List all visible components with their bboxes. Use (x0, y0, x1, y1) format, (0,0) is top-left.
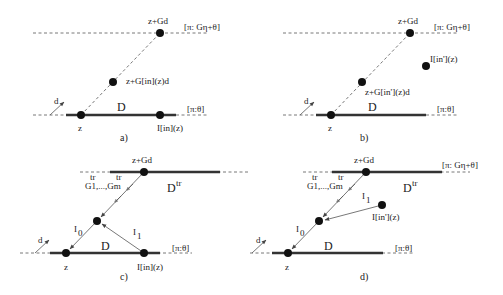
transpose-arrow-tick (338, 196, 343, 201)
panel-d: z+Gd [π: Gη+θ] tr tr G1,...,Gm D tr I 0 … (250, 155, 478, 283)
z-point (62, 249, 70, 257)
top-point (156, 29, 164, 37)
bottom-line-label: [π:θ] (395, 243, 412, 253)
panel-c: z+Gd tr tr G1,...,Gm D tr I 0 I 1 D [π:θ… (20, 155, 250, 283)
image-label: I[in](z) (137, 262, 163, 272)
top-domain-superscript: tr (176, 178, 182, 188)
transpose-arrow-tick (350, 184, 355, 189)
mid-point-label: z+G[in](z)d (126, 76, 170, 86)
top-point-label: z+Gd (148, 16, 169, 26)
I0-label: I (74, 224, 77, 234)
I0-subscript: 0 (300, 228, 305, 238)
z-point (284, 249, 292, 257)
transpose-arrow-tick (128, 184, 133, 189)
z-point (327, 111, 335, 119)
image-point (156, 111, 164, 119)
mid-point (93, 217, 101, 225)
I0-subscript: 0 (78, 228, 83, 238)
direction-label: d (54, 96, 59, 106)
direction-label: d (38, 235, 43, 245)
top-domain-label: D (403, 181, 412, 195)
z-label: z (285, 262, 289, 272)
z-label: z (78, 123, 82, 133)
transpose-arrow (323, 172, 366, 217)
I1-label: I (133, 227, 136, 237)
domain-label: D (368, 100, 377, 114)
panel-caption: c) (120, 271, 128, 283)
mid-point (109, 78, 117, 86)
panel-caption: b) (360, 132, 368, 144)
image-point (140, 249, 148, 257)
domain-label: D (324, 239, 333, 253)
top-point-label: z+Gd (398, 16, 419, 26)
top-point-label: z+Gd (132, 155, 153, 165)
domain-label: D (117, 100, 126, 114)
panel-caption: a) (120, 132, 128, 144)
mid-point-label: z+G[in'](z)d (365, 87, 410, 97)
panel-b: z+Gd [π: Gη+θ] I[in'](z) z+G[in'](z)d D … (283, 16, 470, 144)
I1-label: I (362, 191, 365, 201)
mid-point (315, 217, 323, 225)
z-label: z (328, 123, 332, 133)
I0-label: I (296, 224, 299, 234)
image-label: I[in'](z) (430, 54, 458, 64)
transpose-label: G1,...,Gm (85, 181, 121, 191)
top-line-label: [π: Gη+θ] (184, 22, 220, 32)
direction-label: d (304, 96, 309, 106)
image-point (378, 201, 386, 209)
I1-subscript: 1 (366, 195, 371, 205)
domain-label: D (101, 239, 110, 253)
top-point (140, 168, 148, 176)
bottom-line-label: [π:θ] (172, 243, 189, 253)
top-domain-superscript: tr (412, 178, 418, 188)
image-label: I[in'](z) (372, 212, 400, 222)
top-point-label: z+Gd (354, 155, 375, 165)
diagram-canvas: z+Gd [π: Gη+θ] z+G[in](z)d D [π:θ] z I[i… (0, 0, 503, 295)
top-point (362, 168, 370, 176)
top-domain-label: D (167, 181, 176, 195)
z-point (77, 111, 85, 119)
image-point (422, 62, 430, 70)
I1-subscript: 1 (137, 231, 142, 241)
bottom-line-label: [π:θ] (437, 104, 454, 114)
transpose-label: G1,...,Gm (307, 181, 343, 191)
z-label: z (64, 262, 68, 272)
panel-caption: d) (360, 271, 368, 283)
bottom-line-label: [π:θ] (187, 104, 204, 114)
image-label: I[in](z) (157, 123, 183, 133)
transpose-arrow (101, 172, 144, 217)
top-line-label: [π: Gη+θ] (442, 160, 478, 170)
top-point (406, 29, 414, 37)
direction-label: d (256, 235, 261, 245)
panel-a: z+Gd [π: Gη+θ] z+G[in](z)d D [π:θ] z I[i… (33, 16, 220, 144)
top-line-label: [π: Gη+θ] (434, 22, 470, 32)
mid-point (358, 78, 366, 86)
transpose-arrow-tick (116, 196, 121, 201)
